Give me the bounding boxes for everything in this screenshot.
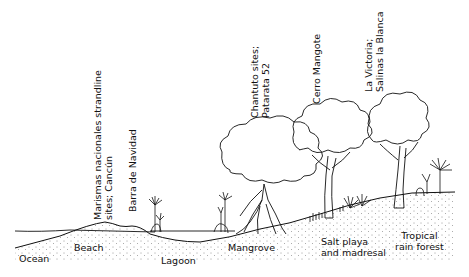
site-label-barra: Barra de Navidad <box>128 129 139 212</box>
site-chantuto-line2: Patarata 52 <box>261 46 272 118</box>
site-chantuto-line1: Chantuto sites; <box>250 46 261 118</box>
site-cerro-line1: Cerro Mangote <box>312 34 323 104</box>
zone-label-ocean: Ocean <box>19 253 49 264</box>
zone-label-beach: Beach <box>74 242 103 253</box>
rainforest-palms-icon <box>416 158 452 196</box>
site-victoria-line2: Salinas la Blanca <box>375 12 386 92</box>
zone-label-salt-playa: Salt playa and madresal <box>321 236 386 258</box>
zone-label-mangrove: Mangrove <box>228 242 275 253</box>
site-label-chantuto: Chantuto sites; Patarata 52 <box>250 46 271 118</box>
zone-label-lagoon: Lagoon <box>161 255 196 266</box>
zone-rain-forest-line1: Tropical <box>395 230 444 241</box>
site-label-cerro: Cerro Mangote <box>312 34 323 104</box>
coastal-ecozone-diagram: Marismas nacionales strandline sites; Ca… <box>0 0 469 277</box>
site-victoria-line1: La Victoria; <box>364 12 375 92</box>
mangrove-shrubs-icon <box>214 192 232 233</box>
mangrove-tree-icon <box>220 116 323 234</box>
victoria-tree-icon <box>367 92 429 208</box>
site-marismas-line2: sites; Cancún <box>104 70 115 220</box>
zone-rain-forest-line2: rain forest <box>395 241 444 252</box>
site-barra-line1: Barra de Navidad <box>128 129 139 212</box>
barra-palms-icon <box>149 196 164 232</box>
site-marismas-line1: Marismas nacionales strandline <box>93 70 104 220</box>
cerro-tree-icon <box>293 98 372 218</box>
zone-salt-playa-line1: Salt playa <box>321 236 386 247</box>
site-label-victoria: La Victoria; Salinas la Blanca <box>364 12 385 92</box>
zone-label-rain-forest: Tropical rain forest <box>395 230 444 252</box>
site-label-marismas: Marismas nacionales strandline sites; Ca… <box>93 70 114 220</box>
zone-salt-playa-line2: and madresal <box>321 247 386 258</box>
